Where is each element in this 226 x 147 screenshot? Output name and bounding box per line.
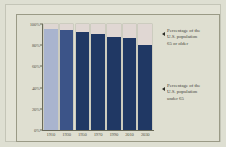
stacked-bar[interactable] — [123, 24, 137, 130]
y-axis-tick-label: 20% — [32, 106, 40, 111]
bar-column — [106, 24, 122, 130]
bar-segment-under65 — [91, 34, 105, 130]
annotation-text: Percentage of the U.S. population under … — [167, 83, 200, 102]
annotation-line: U.S. population — [167, 34, 200, 40]
bar-segment-under65 — [123, 38, 137, 130]
bar-segment-under65 — [44, 29, 58, 130]
x-axis-line — [42, 130, 154, 131]
bar-column — [74, 24, 90, 130]
annotation-line: 65 or older — [167, 41, 200, 47]
bar-segment-under65 — [60, 30, 74, 130]
bar-column — [137, 24, 153, 130]
bar-segment-65plus — [123, 24, 137, 38]
bar-segment-under65 — [76, 32, 90, 130]
bar-segment-65plus — [107, 24, 121, 37]
bar-segment-65plus — [138, 24, 152, 45]
chart-plate: 100% 80% 60% 40% 20% 0% — [16, 14, 220, 142]
stacked-bar[interactable] — [107, 24, 121, 130]
x-axis-tick-label: 1950 — [74, 132, 90, 137]
bar-group — [43, 24, 153, 130]
stacked-bar[interactable] — [91, 24, 105, 130]
bar-column — [90, 24, 106, 130]
left-triangle-icon — [162, 32, 165, 36]
x-axis-tick-label: 2030 — [137, 132, 153, 137]
annotation-65-or-older: Percentage of the U.S. population 65 or … — [162, 28, 200, 47]
stacked-bar[interactable] — [44, 24, 58, 130]
figure: 100% 80% 60% 40% 20% 0% — [0, 0, 226, 147]
x-axis-tick-label: 1930 — [59, 132, 75, 137]
y-axis-tick-label: 40% — [32, 85, 40, 90]
stacked-bar[interactable] — [138, 24, 152, 130]
bar-column — [122, 24, 138, 130]
bar-segment-under65 — [138, 45, 152, 130]
y-axis-tick-label: 80% — [32, 43, 40, 48]
left-triangle-icon — [162, 87, 165, 91]
figure-paper: 100% 80% 60% 40% 20% 0% — [6, 5, 220, 141]
y-axis-tick-label: 100% — [30, 22, 40, 27]
y-axis-tick-label: 60% — [32, 64, 40, 69]
stacked-bar[interactable] — [76, 24, 90, 130]
x-axis-tick-label: 1910 — [43, 132, 59, 137]
annotation-line: under 65 — [167, 96, 200, 102]
bar-segment-under65 — [107, 37, 121, 130]
bar-column — [59, 24, 75, 130]
x-axis-labels: 1910 1930 1950 1970 1990 2010 2030 — [43, 132, 153, 137]
x-axis-tick-label: 1990 — [106, 132, 122, 137]
annotation-under-65: Percentage of the U.S. population under … — [162, 83, 200, 102]
bar-column — [43, 24, 59, 130]
annotation-text: Percentage of the U.S. population 65 or … — [167, 28, 200, 47]
x-axis-tick-label: 2010 — [122, 132, 138, 137]
annotation-line: U.S. population — [167, 89, 200, 95]
plot-area: 100% 80% 60% 40% 20% 0% — [43, 24, 153, 130]
x-axis-tick-label: 1970 — [90, 132, 106, 137]
stacked-bar[interactable] — [60, 24, 74, 130]
bar-segment-65plus — [76, 24, 90, 32]
bar-segment-65plus — [91, 24, 105, 34]
